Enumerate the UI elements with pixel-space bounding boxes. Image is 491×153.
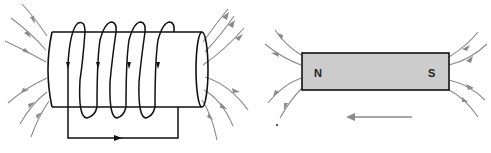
field-arrow-icon — [235, 34, 243, 41]
solenoid-coil — [66, 22, 174, 118]
coil-front — [97, 22, 116, 107]
field-line — [280, 88, 302, 118]
field-arrow-icon — [466, 84, 474, 90]
solenoid-right-field-lines — [202, 9, 248, 140]
coil-back — [80, 32, 97, 118]
current-arrow-icon — [114, 135, 122, 141]
field-line — [205, 77, 248, 110]
field-line — [265, 44, 301, 65]
circuit-wire — [68, 107, 178, 138]
field-arrow-icon — [273, 90, 279, 97]
diagram-canvas: N S — [0, 0, 491, 153]
current-arrow-icon — [156, 62, 160, 69]
field-line — [268, 78, 301, 103]
field-line — [203, 9, 228, 42]
field-arrow-icon — [462, 97, 468, 102]
field-arrow-icon — [22, 48, 30, 54]
north-pole-label: N — [314, 67, 322, 79]
field-line — [449, 80, 485, 100]
cylinder-left-end — [48, 32, 52, 107]
solenoid-left-field-lines — [5, 4, 49, 137]
field-arrow-icon — [271, 52, 279, 57]
field-arrow-icon — [207, 113, 213, 120]
return-wire — [68, 107, 178, 141]
coil-back — [139, 32, 155, 118]
field-arrow-icon — [462, 45, 470, 51]
coil-back — [110, 32, 126, 118]
field-arrow-icon — [30, 16, 35, 24]
field-line — [449, 32, 478, 57]
field-line — [20, 92, 47, 124]
motion-arrow-icon — [346, 113, 412, 121]
south-pole-label: S — [428, 67, 435, 79]
current-arrow-icon — [127, 62, 131, 69]
bar-magnet-figure: N S — [265, 30, 487, 126]
field-arrow-icon — [24, 31, 31, 38]
current-arrow-icon — [96, 62, 100, 69]
bar-magnet-body — [302, 53, 449, 90]
field-line — [204, 90, 233, 126]
current-arrow-icon — [66, 62, 70, 69]
field-arrow-icon — [277, 33, 283, 40]
field-line — [31, 101, 49, 137]
solenoid-figure — [5, 4, 248, 141]
cylinder-right-end — [196, 32, 208, 107]
field-arrow-icon — [220, 103, 227, 109]
motion-arrow-head — [346, 113, 355, 121]
magnet-left-field-lines — [265, 30, 302, 126]
stray-mark — [276, 124, 278, 126]
field-line — [449, 90, 478, 117]
magnet-right-field-lines — [449, 32, 487, 117]
field-arrow-icon — [232, 88, 240, 93]
